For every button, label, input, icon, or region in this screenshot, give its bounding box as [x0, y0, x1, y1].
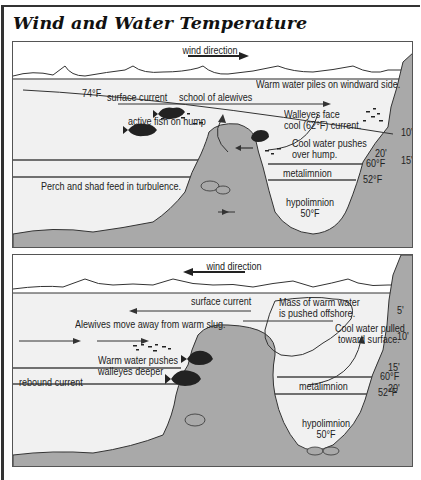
depth-label: 20'	[375, 148, 387, 159]
boulder	[185, 414, 205, 426]
wind-direction-label: wind direction	[195, 261, 272, 272]
surface-temp-label: 74°F	[82, 88, 101, 99]
warm-water-mass-label-2: is pushed offshore.	[279, 308, 355, 319]
perch-shad-label: Perch and shad feed in turbulence.	[41, 181, 181, 192]
hypolimnion-temp-label: 50°F	[280, 208, 340, 219]
depth-label: 20'	[388, 383, 400, 394]
depth-label: 10'	[397, 331, 409, 342]
depth-label: 10'	[401, 127, 413, 138]
metalimnion-label: metalimnion	[299, 381, 348, 392]
walleyes-face-label-2: cool (62°F) current.	[284, 120, 361, 131]
hypolimnion-temp-label: 50°F	[296, 429, 356, 440]
boulder	[323, 447, 339, 455]
panel-wind-toward-shore: wind direction 74°F surface current scho…	[12, 41, 413, 248]
depth-label: 5'	[397, 305, 404, 316]
boulder	[216, 186, 230, 194]
temp-52-label: 52°F	[363, 174, 382, 185]
school-of-alewives-label: school of alewives	[179, 92, 252, 103]
alewives-move-label: Alewives move away from warm slug.	[75, 319, 226, 330]
waves	[13, 66, 413, 76]
panel-wind-offshore: wind direction surface current Mass of w…	[12, 254, 413, 467]
surface-current-label: surface current	[191, 296, 251, 307]
rebound-current-label: rebound current	[19, 377, 83, 388]
warm-water-pushes-label-2: walleyes deeper	[98, 366, 163, 377]
active-fish-label: active fish on hump	[128, 116, 206, 127]
cool-water-pushes-label-2: over hump.	[292, 149, 337, 160]
warm-water-piles-label: Warm water piles on windward side.	[256, 79, 400, 90]
surface-current-label: surface current	[107, 92, 167, 103]
cool-water-pulled-label-2: toward surface.	[338, 334, 400, 345]
wind-direction-label: wind direction	[171, 45, 248, 56]
depth-label: 15'	[401, 155, 413, 166]
boulder	[307, 447, 323, 455]
temp-60-label: 60°F	[366, 158, 385, 169]
figure-title: Wind and Water Temperature	[13, 13, 307, 33]
wind-arrow-head	[183, 268, 193, 276]
depth-label: 15'	[388, 362, 400, 373]
waves	[13, 279, 413, 289]
metalimnion-label: metalimnion	[283, 168, 332, 179]
